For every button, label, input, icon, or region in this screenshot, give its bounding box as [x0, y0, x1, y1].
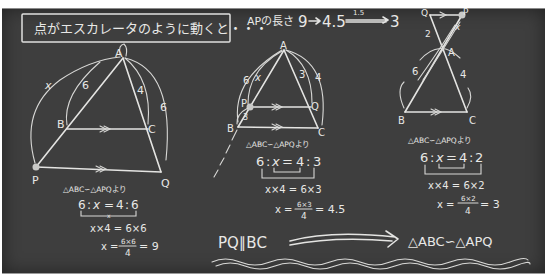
svg-text:=: = [104, 198, 114, 212]
conclusion: PQ∥BC △ABC∽△APQ [212, 231, 530, 269]
equation-2-lhs: x = [101, 241, 118, 252]
equation-2-numerator: 6×2 [461, 195, 476, 203]
label-ab: 6 [243, 75, 249, 86]
point-p-dot [33, 164, 40, 171]
equation-1: x×4 = 6×6 [90, 223, 147, 234]
svg-text:6: 6 [420, 150, 428, 165]
label-ab: 6 [82, 79, 89, 92]
vertex-q: Q [311, 101, 319, 112]
ratio-equation: 6 : x = 4 : 2 [420, 150, 483, 165]
result-text: △ABC∽△APQ [408, 234, 493, 249]
equation-2-denominator: 4 [301, 211, 307, 221]
svg-text:=: = [282, 154, 293, 169]
ap-length-note: APの長さ 9 4.5 1.5 3 [247, 9, 400, 31]
label-ap: x [454, 22, 461, 32]
label-aq: 3 [299, 69, 305, 80]
equation-2-result: = 3 [480, 198, 500, 211]
ap-length-v3: 3 [390, 13, 400, 31]
vertex-a: A [280, 40, 287, 51]
premise-text: PQ∥BC [218, 234, 267, 252]
equation-2-lhs: x = [275, 204, 292, 215]
vertex-b: B [398, 115, 405, 126]
svg-text:=: = [446, 150, 457, 165]
svg-text:6: 6 [78, 198, 86, 212]
equation-2-result: = 4.5 [315, 203, 345, 216]
svg-text:6: 6 [131, 198, 139, 212]
vertex-q: Q [421, 8, 428, 18]
vertex-c: C [148, 123, 156, 136]
vertex-p: P [32, 174, 39, 187]
svg-text::: : [306, 154, 310, 169]
big-arrow-icon [290, 231, 398, 247]
similarity-statement: △ABC∽△APQより [246, 140, 309, 149]
vertex-c: C [318, 127, 325, 138]
ap-length-v2: 4.5 [322, 13, 346, 31]
label-ac: 4 [137, 84, 144, 97]
svg-text::: : [430, 150, 434, 165]
ap-length-arrow-label: 1.5 [353, 9, 364, 17]
label-ap: x [254, 72, 261, 83]
ap-length-v1: 9 [298, 13, 308, 31]
label-pb: 3 [243, 113, 248, 122]
double-arrow-icon [346, 17, 388, 23]
label-ac: 4 [460, 69, 466, 80]
vertex-c: C [469, 115, 476, 126]
svg-text:3: 3 [313, 154, 321, 169]
title-box: 点がエスカレータのように動くと・・・ [22, 14, 268, 42]
ap-length-label: APの長さ [247, 15, 294, 28]
svg-text::: : [87, 198, 91, 212]
equation-2-lhs: x = [437, 199, 454, 210]
chalkboard-drawing: 点がエスカレータのように動くと・・・ APの長さ 9 4.5 1.5 3 A B… [0, 0, 548, 279]
equation-1: x×4 = 6×2 [428, 180, 485, 191]
ratio-equation: 6 : x = 4 : 6 [78, 198, 139, 212]
equation-2-denominator: 4 [125, 248, 131, 258]
label-aq: 6 [160, 101, 167, 114]
label-ap: x [44, 79, 52, 92]
vertex-p: P [463, 7, 469, 17]
svg-text:4: 4 [296, 154, 304, 169]
ratio-equation: 6 : x = 4 : 3 [256, 154, 321, 169]
equation-2-denominator: 4 [465, 206, 471, 216]
label-ac: 4 [315, 72, 321, 83]
vertex-a: A [115, 47, 123, 60]
label-aq: 2 [425, 29, 431, 39]
svg-text:6: 6 [256, 154, 264, 169]
svg-text:x: x [435, 150, 444, 165]
title-text: 点がエスカレータのように動くと・・・ [34, 21, 268, 36]
label-ab: 6 [412, 66, 418, 77]
equation-2-numerator: 6×6 [121, 238, 136, 246]
svg-text:4: 4 [116, 198, 124, 212]
similarity-statement: △ABC∽△APQより [63, 185, 126, 194]
vertex-q: Q [161, 177, 170, 190]
svg-text:2: 2 [475, 150, 483, 165]
point-p-dot [247, 104, 254, 111]
vertex-a: A [448, 47, 455, 58]
svg-text::: : [469, 150, 473, 165]
diagram-2: A B C P Q x 6 3 4 3 △ABC∽△APQより 6 : x = … [214, 40, 345, 221]
similarity-statement: △ABC∽△APQより [408, 136, 471, 145]
svg-text:x: x [271, 154, 280, 169]
vertex-b: B [227, 123, 234, 134]
diagram-3: Q P A B C 2 6 4 x △ABC∽△APQより 6 : x = 4 … [398, 7, 500, 216]
svg-text:x: x [92, 198, 101, 212]
vertex-b: B [57, 118, 65, 131]
bracket-mark: x [107, 212, 111, 219]
equation-2-result: = 9 [139, 240, 159, 253]
equation-2-numerator: 6×3 [297, 201, 312, 209]
equation-1: x×4 = 6×3 [265, 184, 322, 195]
svg-text:4: 4 [459, 150, 467, 165]
svg-text::: : [125, 198, 129, 212]
vertex-p: P [241, 98, 247, 109]
diagram-1: A B C P Q x 6 4 6 △ABC∽△APQより 6 : x = 4 … [31, 44, 170, 258]
svg-text::: : [266, 154, 270, 169]
arrow-right-icon [309, 18, 320, 24]
